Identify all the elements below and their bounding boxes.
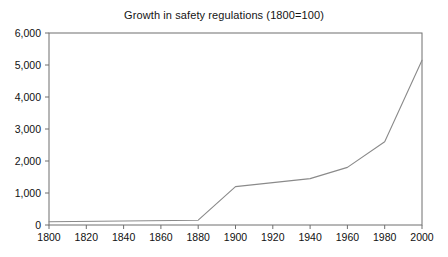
plot-frame (49, 33, 422, 225)
x-tick-label: 2000 (410, 231, 433, 243)
chart-figure: Growth in safety regulations (1800=100) … (0, 0, 448, 257)
x-tick-label: 1980 (373, 231, 396, 243)
x-tick-label: 1860 (149, 231, 172, 243)
x-tick-label: 1900 (224, 231, 247, 243)
x-axis-ticks (49, 225, 422, 229)
plot-area-border (49, 33, 422, 225)
line-chart-plot (0, 0, 448, 257)
y-tick-label: 3,000 (0, 123, 41, 135)
x-tick-label: 1880 (187, 231, 210, 243)
y-tick-label: 4,000 (0, 91, 41, 103)
y-tick-label: 2,000 (0, 155, 41, 167)
y-axis-ticks (45, 33, 49, 225)
y-tick-label: 5,000 (0, 59, 41, 71)
x-tick-label: 1840 (112, 231, 135, 243)
y-tick-label: 6,000 (0, 27, 41, 39)
x-tick-label: 1820 (75, 231, 98, 243)
x-tick-label: 1800 (37, 231, 60, 243)
y-tick-label: 1,000 (0, 187, 41, 199)
x-tick-label: 1920 (261, 231, 284, 243)
y-tick-label: 0 (0, 219, 41, 231)
x-tick-label: 1940 (298, 231, 321, 243)
x-tick-label: 1960 (336, 231, 359, 243)
